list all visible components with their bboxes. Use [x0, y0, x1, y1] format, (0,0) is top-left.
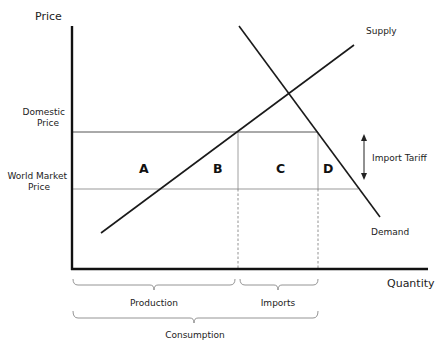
- region-c-label: C: [276, 161, 285, 176]
- imports-label: Imports: [261, 298, 296, 308]
- supply-label: Supply: [366, 26, 397, 36]
- imports-brace: [240, 279, 318, 290]
- region-a-label: A: [139, 161, 149, 176]
- supply-curve: [101, 45, 354, 233]
- production-brace: [73, 279, 235, 290]
- world-price-label-line2: Price: [28, 182, 50, 192]
- x-axis-label: Quantity: [387, 277, 435, 290]
- domestic-price-label-line2: Price: [37, 118, 59, 128]
- region-b-label: B: [213, 161, 223, 176]
- demand-curve: [239, 26, 380, 217]
- demand-label: Demand: [371, 227, 409, 237]
- production-label: Production: [130, 298, 178, 308]
- tariff-diagram: Price Quantity Domestic Price World Mark…: [0, 0, 444, 354]
- region-d-label: D: [323, 161, 333, 176]
- consumption-label: Consumption: [165, 330, 225, 340]
- world-price-label-line1: World Market: [7, 171, 67, 181]
- consumption-brace: [73, 311, 318, 323]
- domestic-price-label-line1: Domestic: [23, 107, 65, 117]
- y-axis-label: Price: [35, 10, 62, 23]
- import-tariff-label: Import Tariff: [372, 153, 427, 163]
- tariff-arrow-icon: [361, 134, 367, 180]
